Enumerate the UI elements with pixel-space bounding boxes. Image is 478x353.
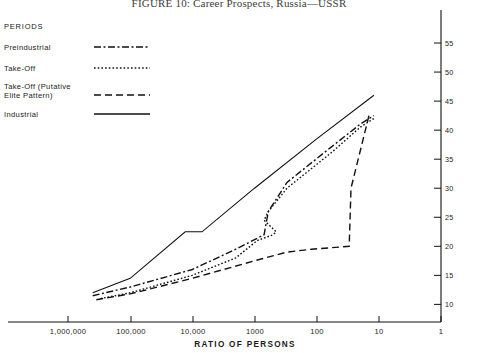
data-series-layer	[93, 95, 374, 299]
x-axis-ticks	[68, 316, 441, 322]
y-tick-label: 35	[445, 155, 463, 164]
plot-area	[0, 0, 478, 353]
axis-lines	[8, 10, 441, 322]
x-tick-label: 100	[287, 327, 347, 336]
x-tick-label: 1	[411, 327, 471, 336]
figure-root: FIGURE 10: Career Prospects, Russia—USSR…	[0, 0, 478, 353]
series-line-solid	[93, 95, 374, 292]
x-tick-label: 100,000	[101, 327, 161, 336]
y-tick-label: 50	[445, 68, 463, 77]
plot-svg	[0, 0, 478, 353]
y-tick-label: 30	[445, 184, 463, 193]
y-tick-label: 40	[445, 126, 463, 135]
y-tick-label: 15	[445, 271, 463, 280]
x-tick-label: 1000	[225, 327, 285, 336]
x-tick-label: 10,000	[163, 327, 223, 336]
y-tick-label: 25	[445, 213, 463, 222]
y-axis-title-wrap: AGE ATTAINING LEVEL	[466, 120, 478, 240]
y-tick-label: 55	[445, 39, 463, 48]
y-tick-label: 10	[445, 300, 463, 309]
y-tick-label: 45	[445, 97, 463, 106]
x-tick-label: 1,000,000	[38, 327, 98, 336]
y-tick-label: 20	[445, 242, 463, 251]
x-axis-title: RATIO OF PERSONS	[150, 340, 340, 349]
y-axis-ticks	[434, 43, 441, 304]
x-tick-label: 10	[349, 327, 409, 336]
